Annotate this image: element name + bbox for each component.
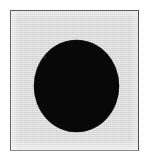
figure-canvas [0, 0, 155, 159]
black-circle-shape [34, 40, 119, 132]
image-plate-frame [10, 10, 139, 151]
figure-caption [0, 152, 155, 159]
